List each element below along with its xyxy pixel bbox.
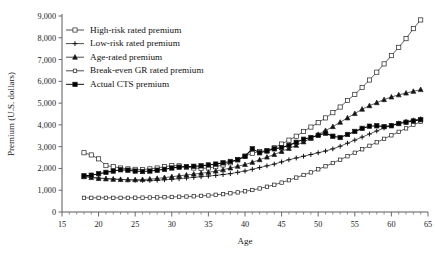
data-point-marker (96, 171, 100, 175)
data-point-marker (404, 127, 407, 130)
legend-label: Actual CTS premium (90, 79, 169, 89)
x-axis-title: Age (238, 236, 253, 246)
data-point-marker (257, 165, 262, 170)
data-point-marker (279, 160, 284, 165)
data-point-marker (367, 132, 372, 137)
data-point-marker (375, 70, 379, 74)
data-point-marker (382, 124, 386, 128)
data-point-marker (170, 166, 174, 170)
legend-item[interactable]: Actual CTS premium (66, 79, 169, 89)
data-point-marker (148, 169, 152, 173)
y-axis-tick-label: 6,000 (38, 77, 56, 86)
data-point-marker (418, 117, 422, 121)
data-point-marker (323, 149, 328, 154)
y-axis-tick-label: 1,000 (38, 186, 56, 195)
data-point-marker (382, 62, 386, 66)
data-point-marker (331, 134, 335, 138)
legend-item[interactable]: Low-risk rated premium (66, 38, 180, 48)
data-point-marker (199, 194, 202, 197)
data-point-marker (353, 151, 356, 154)
data-point-marker (89, 153, 93, 157)
data-point-marker (287, 138, 291, 142)
data-point-marker (228, 159, 232, 163)
data-point-marker (330, 146, 335, 151)
data-point-marker (141, 196, 144, 199)
data-point-marker (184, 165, 188, 169)
data-point-marker (279, 145, 283, 149)
data-point-marker (111, 169, 115, 173)
data-point-marker (236, 191, 239, 194)
data-point-marker (346, 155, 349, 158)
data-point-marker (126, 168, 130, 172)
x-axis-tick-label: 60 (387, 220, 395, 229)
data-point-marker (345, 141, 350, 146)
legend-symbol-marker (73, 28, 77, 32)
data-point-marker (419, 18, 423, 22)
data-point-marker (287, 157, 292, 162)
data-point-marker (338, 105, 342, 109)
data-point-marker (185, 195, 188, 198)
data-point-marker (243, 190, 246, 193)
x-axis-tick-label: 35 (204, 220, 212, 229)
data-point-marker (250, 151, 254, 155)
x-axis-tick-label: 50 (314, 220, 322, 229)
legend-symbol-marker (73, 82, 77, 86)
data-point-marker (360, 107, 365, 112)
x-axis-tick-label: 30 (168, 220, 176, 229)
legend-item[interactable]: Break-even GR rated premium (66, 65, 204, 75)
data-point-marker (177, 195, 180, 198)
data-point-marker (192, 164, 196, 168)
data-point-marker (338, 158, 341, 161)
data-point-marker (294, 140, 298, 144)
data-point-marker (375, 124, 379, 128)
data-point-marker (301, 154, 306, 159)
data-point-marker (214, 162, 218, 166)
data-point-marker (294, 156, 299, 161)
data-point-marker (82, 151, 86, 155)
data-point-marker (272, 147, 276, 151)
data-point-marker (316, 121, 320, 125)
y-axis-title: Premium (U.S. dollars) (6, 72, 16, 156)
data-point-marker (140, 169, 144, 173)
y-axis-tick-label: 2,000 (38, 164, 56, 173)
data-point-marker (352, 111, 357, 116)
x-axis-tick-label: 25 (131, 220, 139, 229)
data-point-marker (338, 135, 342, 139)
data-point-marker (155, 196, 158, 199)
data-point-marker (287, 179, 290, 182)
y-axis-tick-label: 7,000 (38, 56, 56, 65)
data-point-marker (192, 195, 195, 198)
data-point-marker (308, 152, 313, 157)
data-point-marker (82, 196, 85, 199)
data-point-marker (316, 150, 321, 155)
data-point-marker (258, 187, 261, 190)
data-point-marker (221, 192, 224, 195)
data-point-marker (235, 158, 239, 162)
x-axis-tick-label: 20 (95, 220, 103, 229)
x-axis-tick-label: 45 (278, 220, 286, 229)
data-point-marker (104, 170, 108, 174)
data-point-marker (170, 195, 173, 198)
data-point-marker (112, 196, 115, 199)
data-point-marker (104, 164, 108, 168)
data-point-marker (265, 185, 268, 188)
data-point-marker (397, 121, 401, 125)
data-point-marker (345, 115, 350, 120)
data-point-marker (273, 183, 276, 186)
legend-symbol-marker (73, 41, 78, 46)
data-point-marker (199, 164, 203, 168)
data-point-marker (214, 193, 217, 196)
data-point-marker (353, 92, 357, 96)
data-point-marker (317, 168, 320, 171)
data-point-marker (338, 144, 343, 149)
legend-item[interactable]: Age-rated premium (66, 52, 162, 62)
data-point-marker (90, 196, 93, 199)
data-point-marker (352, 138, 357, 143)
y-axis-tick-label: 4,000 (38, 121, 56, 130)
premium-by-age-line-chart: 01,0002,0003,0004,0005,0006,0007,0008,00… (0, 0, 435, 256)
legend-item[interactable]: High-risk rated premium (66, 25, 181, 35)
data-point-marker (177, 165, 181, 169)
data-point-marker (404, 120, 408, 124)
data-point-marker (265, 149, 269, 153)
legend-symbol-marker (73, 69, 76, 72)
